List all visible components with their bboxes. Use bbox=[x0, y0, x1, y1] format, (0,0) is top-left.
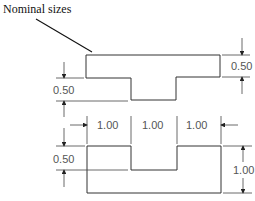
top-t-shape bbox=[86, 55, 220, 100]
width-label-2: 1.00 bbox=[142, 119, 163, 131]
dimension-label-bottom-left: 0.50 bbox=[53, 153, 74, 165]
nominal-sizes-diagram: Nominal sizes 0.50 0.50 1.00 1.00 1.00 0… bbox=[0, 0, 255, 201]
width-label-3: 1.00 bbox=[186, 119, 207, 131]
bottom-u-shape bbox=[87, 146, 221, 193]
leader-line bbox=[36, 19, 92, 52]
dimension-label-top-right: 0.50 bbox=[231, 60, 252, 72]
width-label-1: 1.00 bbox=[97, 119, 118, 131]
dimension-label-top-left: 0.50 bbox=[53, 84, 74, 96]
dimension-label-bottom-right: 1.00 bbox=[233, 164, 254, 176]
title-label: Nominal sizes bbox=[3, 2, 72, 16]
